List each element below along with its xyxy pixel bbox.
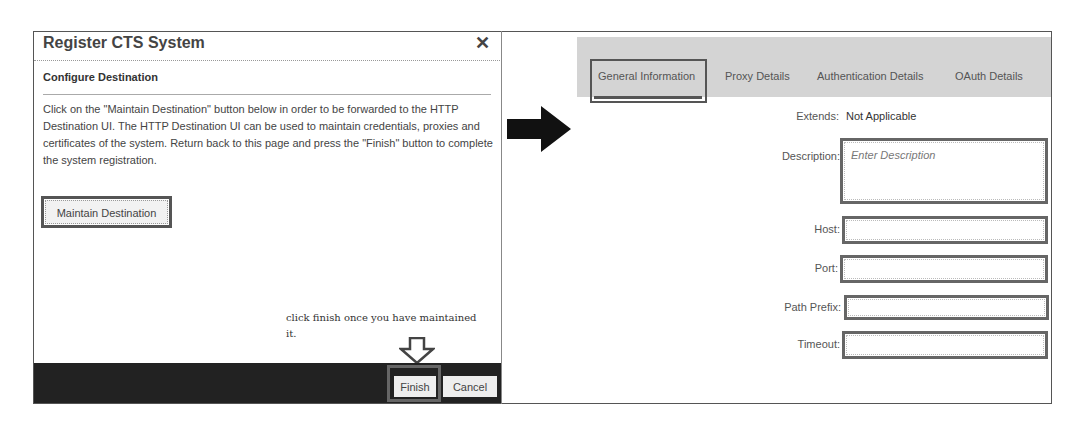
- dialog-title: Register CTS System: [43, 34, 205, 52]
- description-field: [840, 138, 1048, 204]
- tab-oauth-details[interactable]: OAuth Details: [955, 70, 1023, 82]
- host-input[interactable]: [846, 220, 1044, 240]
- title-divider: [34, 60, 500, 61]
- timeout-input[interactable]: [846, 335, 1044, 355]
- cancel-button[interactable]: Cancel: [443, 376, 497, 397]
- port-input[interactable]: [844, 259, 1044, 279]
- panel-divider: [501, 31, 502, 404]
- description-input[interactable]: [844, 142, 1044, 200]
- path-prefix-input[interactable]: [848, 299, 1045, 316]
- timeout-label: Timeout:: [798, 338, 840, 350]
- port-field: [840, 255, 1048, 283]
- section-title: Configure Destination: [43, 71, 158, 83]
- tab-proxy-details[interactable]: Proxy Details: [725, 70, 790, 82]
- close-icon: ✕: [475, 33, 490, 53]
- extends-value: Not Applicable: [846, 110, 916, 122]
- host-label: Host:: [814, 223, 840, 235]
- finish-button[interactable]: Finish: [394, 376, 436, 397]
- timeout-field: [842, 331, 1048, 359]
- description-label: Description:: [782, 150, 840, 162]
- hollow-down-arrow-icon: [399, 337, 435, 364]
- tab-authentication-details[interactable]: Authentication Details: [817, 70, 923, 82]
- annotation-note: click finish once you have maintained it…: [286, 310, 486, 342]
- instructions-text: Click on the "Maintain Destination" butt…: [43, 101, 495, 169]
- close-button[interactable]: ✕: [472, 33, 492, 53]
- maintain-destination-button[interactable]: Maintain Destination: [45, 200, 168, 224]
- section-divider: [43, 94, 491, 95]
- tab-general-information[interactable]: General Information: [598, 70, 695, 82]
- extends-label: Extends:: [796, 110, 839, 122]
- right-arrow-icon: [507, 106, 571, 152]
- path-prefix-label: Path Prefix:: [784, 301, 841, 313]
- path-prefix-field: [844, 295, 1049, 320]
- active-tab-indicator: [594, 96, 702, 99]
- host-field: [842, 216, 1048, 244]
- port-label: Port:: [815, 262, 838, 274]
